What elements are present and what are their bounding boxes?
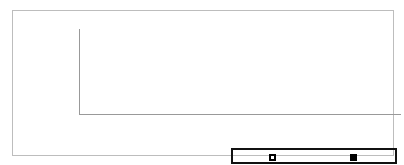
- legend-swatch-distinct: [269, 154, 276, 161]
- chart-frame: [12, 10, 394, 156]
- legend: [231, 148, 397, 164]
- legend-item-our-approach: [350, 151, 359, 162]
- legend-item-distinct: [269, 151, 278, 162]
- plot-area: [79, 29, 401, 115]
- legend-swatch-our-approach: [350, 154, 357, 161]
